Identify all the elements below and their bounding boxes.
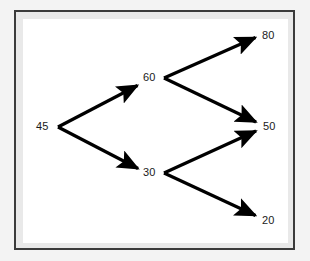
edge-root-to-up [58,86,138,128]
node-label-root: 45 [36,121,49,132]
edge-up-to-updown [164,78,256,122]
edge-down-to-downdown [164,173,256,216]
node-label-upup: 80 [262,30,275,41]
node-label-middle: 50 [263,121,276,132]
edge-down-to-downup [164,131,256,173]
edge-root-to-down [58,127,138,169]
node-label-up: 60 [143,72,156,83]
figure-root: 45 60 30 80 50 20 [0,0,310,261]
edge-up-to-upup [164,38,256,79]
node-label-downdown: 20 [262,215,275,226]
node-label-down: 30 [143,167,156,178]
